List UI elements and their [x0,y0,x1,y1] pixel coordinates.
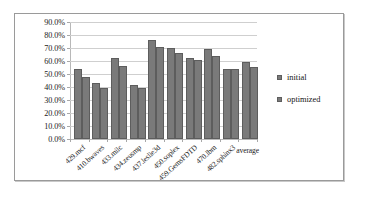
chart-legend: initial optimized [277,72,343,116]
chart-frame: 90.0%80.0%70.0%60.0%50.0%40.0%30.0%20.0%… [14,13,344,181]
y-tick-mark [67,35,70,36]
bar-optimized [82,77,90,139]
bar-group [111,22,125,139]
y-tick-label: 40.0% [44,83,65,92]
bar-initial [167,48,175,139]
x-tick-mark [89,139,90,142]
bar-optimized [194,60,202,139]
bar-initial [92,83,100,139]
legend-swatch-icon [277,97,282,102]
bar-group [186,22,200,139]
bar-optimized [212,56,220,139]
y-tick-label: 50.0% [44,70,65,79]
x-tick-mark [238,139,239,142]
y-tick-label: 60.0% [44,57,65,66]
bar-group [148,22,162,139]
bar-initial [74,69,82,139]
bar-optimized [119,66,127,139]
x-tick-mark [201,139,202,142]
bar-group [242,22,256,139]
x-tick-mark [70,139,71,142]
y-tick-label: 90.0% [44,18,65,27]
bar-optimized [231,69,239,139]
y-tick-mark [67,22,70,23]
bar-optimized [250,67,258,139]
plot-area: 90.0%80.0%70.0%60.0%50.0%40.0%30.0%20.0%… [70,22,257,140]
y-tick-label: 80.0% [44,31,65,40]
bar-initial [111,58,119,139]
bar-optimized [138,88,146,139]
bar-initial [242,62,250,139]
bar-group [92,22,106,139]
x-tick-mark [107,139,108,142]
bar-initial [130,85,138,139]
y-tick-label: 30.0% [44,96,65,105]
x-tick-mark [182,139,183,142]
bar-optimized [156,47,164,139]
y-tick-mark [67,100,70,101]
y-tick-label: 20.0% [44,109,65,118]
bar-group [130,22,144,139]
legend-label-optimized: optimized [287,95,321,104]
bar-optimized [100,88,108,139]
x-tick-mark [220,139,221,142]
bar-group [223,22,237,139]
y-tick-label: 10.0% [44,122,65,131]
bar-initial [223,69,231,139]
bar-group [204,22,218,139]
bar-initial [204,49,212,139]
x-tick-mark [145,139,146,142]
bar-initial [186,58,194,139]
y-tick-mark [67,87,70,88]
bar-group [167,22,181,139]
x-tick-mark [257,139,258,142]
legend-swatch-icon [277,75,282,80]
y-tick-label: 70.0% [44,44,65,53]
legend-item-initial: initial [277,72,343,82]
x-tick-label: average [236,146,259,155]
bar-optimized [175,53,183,139]
y-tick-mark [67,48,70,49]
y-tick-label: 0.0% [48,135,65,144]
bar-initial [148,40,156,139]
legend-label-initial: initial [287,73,307,82]
bar-group [74,22,88,139]
legend-item-optimized: optimized [277,94,343,104]
y-tick-mark [67,113,70,114]
chart-container: 90.0%80.0%70.0%60.0%50.0%40.0%30.0%20.0%… [0,0,365,205]
y-tick-mark [67,126,70,127]
x-tick-mark [164,139,165,142]
y-tick-mark [67,61,70,62]
y-tick-mark [67,74,70,75]
x-tick-mark [126,139,127,142]
y-axis-line [70,22,71,140]
